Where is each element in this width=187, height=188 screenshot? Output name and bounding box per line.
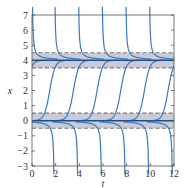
y-tick-label: 2 — [23, 85, 28, 96]
curve-s-rise — [125, 60, 163, 120]
curve-s-rise — [149, 66, 174, 120]
equilibrium-lines — [32, 60, 174, 120]
y-tick-label: −2 — [17, 145, 28, 156]
y-tick-label: 4 — [23, 55, 28, 66]
x-axis-ticks: 024681012 — [30, 163, 180, 179]
x-tick-label: 0 — [30, 168, 35, 179]
y-tick-label: 0 — [23, 115, 28, 126]
x-tick-label: 12 — [169, 168, 179, 179]
x-tick-label: 10 — [145, 168, 155, 179]
y-tick-label: 5 — [23, 40, 28, 51]
x-tick-label: 4 — [77, 168, 82, 179]
y-tick-label: 1 — [23, 100, 28, 111]
y-tick-label: 3 — [23, 70, 28, 81]
chart: 024681012 −3−2−101234567 t x — [0, 0, 187, 188]
equilibrium-bands — [32, 53, 174, 129]
x-tick-label: 8 — [124, 168, 129, 179]
curve-s-rise — [78, 60, 116, 120]
x-tick-label: 2 — [53, 168, 58, 179]
x-axis-label: t — [102, 178, 105, 188]
y-tick-label: −3 — [17, 161, 28, 172]
y-tick-label: −1 — [17, 130, 28, 141]
y-tick-label: 7 — [23, 10, 28, 21]
y-axis-label: x — [7, 85, 13, 96]
solution-curves — [32, 7, 174, 173]
curve-s-rise — [54, 60, 92, 120]
curve-s-rise — [102, 60, 140, 120]
y-tick-label: 6 — [23, 25, 28, 36]
curve-s-rise — [32, 60, 68, 120]
